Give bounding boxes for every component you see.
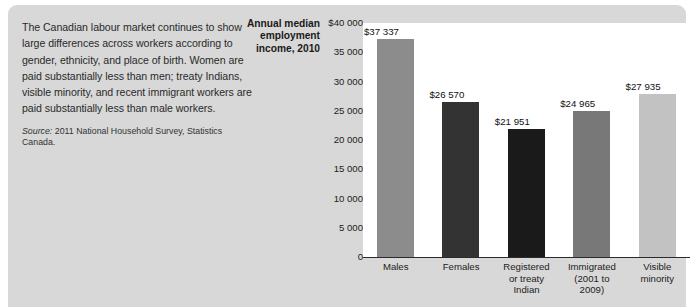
x-axis-category-line: Males <box>363 261 428 273</box>
bar-value-label: $21 951 <box>480 116 545 127</box>
x-axis-category-label: Registeredor treatyIndian <box>494 261 559 296</box>
y-axis-tick-label: 10 000 <box>322 193 363 205</box>
bar[interactable] <box>442 102 479 257</box>
x-axis-category-line: (2001 to <box>559 273 624 285</box>
x-axis-labels: MalesFemalesRegisteredor treatyIndianImm… <box>363 261 690 307</box>
x-axis-category-label: Males <box>363 261 428 273</box>
x-axis-category-line: Immigrated <box>559 261 624 273</box>
source-note: Source: 2011 National Household Survey, … <box>22 126 254 149</box>
bar[interactable] <box>377 39 414 257</box>
figure-panel: The Canadian labour market continues to … <box>8 5 686 307</box>
plot-area: $37 337$26 570$21 951$24 965$27 935 <box>363 23 690 257</box>
x-axis-category-line: minority <box>625 273 690 285</box>
y-axis-tick-label: 25 000 <box>322 105 363 117</box>
y-axis-tick-label: 30 000 <box>322 76 363 88</box>
y-axis-tick-label: 20 000 <box>322 134 363 146</box>
source-text: 2011 National Household Survey, Statisti… <box>22 126 222 147</box>
x-axis-line <box>363 257 690 258</box>
x-axis-category-label: Females <box>428 261 493 273</box>
x-axis-category-line: Registered <box>494 261 559 273</box>
x-axis-category-line: Females <box>428 261 493 273</box>
bar-value-label: $27 935 <box>611 81 676 92</box>
y-axis-tick-label: 5 000 <box>322 222 363 234</box>
bar-slot: $24 965 <box>559 23 624 257</box>
figure-container: The Canadian labour market continues to … <box>0 0 692 307</box>
bar-slot: $37 337 <box>363 23 428 257</box>
commentary-block: The Canadian labour market continues to … <box>22 19 254 149</box>
source-label: Source: <box>22 126 52 136</box>
bar-value-label: $24 965 <box>545 98 610 109</box>
bar-slot: $27 935 <box>625 23 690 257</box>
x-axis-category-line: Visible <box>625 261 690 273</box>
bar-chart: $40 00035 00030 00025 00020 00015 00010 … <box>322 18 690 307</box>
y-axis-tick-label: 0 <box>322 251 363 263</box>
y-axis: $40 00035 00030 00025 00020 00015 00010 … <box>322 18 363 262</box>
bar-slot: $26 570 <box>428 23 493 257</box>
bar-slot: $21 951 <box>494 23 559 257</box>
x-axis-category-label: Immigrated(2001 to2009) <box>559 261 624 296</box>
bar[interactable] <box>508 129 545 257</box>
y-axis-tick-label: 15 000 <box>322 163 363 175</box>
x-axis-category-label: Visibleminority <box>625 261 690 284</box>
bar[interactable] <box>639 94 676 257</box>
x-axis-category-line: 2009) <box>559 284 624 296</box>
y-axis-tick-label: 35 000 <box>322 46 363 58</box>
commentary-body-text: The Canadian labour market continues to … <box>22 19 254 117</box>
x-axis-category-line: or treaty <box>494 273 559 285</box>
bar-value-label: $26 570 <box>414 89 479 100</box>
bar[interactable] <box>573 111 610 257</box>
y-axis-title: Annual median employment income, 2010 <box>244 18 320 55</box>
x-axis-category-line: Indian <box>494 284 559 296</box>
bar-value-label: $37 337 <box>349 26 414 37</box>
